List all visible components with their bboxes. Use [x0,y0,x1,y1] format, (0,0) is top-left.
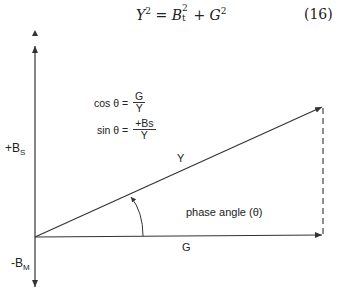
sin-denominator: Y [141,130,148,141]
label-g: G [182,241,191,253]
plus-b-text: +B [5,141,20,155]
phasor-diagram [0,0,344,291]
cos-label: cos θ = [94,97,128,109]
plus-b-subscript: S [20,148,25,157]
cos-denominator: Y [136,103,143,114]
sin-fraction: +Bs Y [133,118,155,141]
sin-formula: sin θ = +Bs Y [97,118,156,141]
conductance-vector-g [35,235,322,237]
label-y: Y [177,152,184,164]
admittance-vector-y [35,107,322,237]
axis-label-plus-bs: +BS [5,141,25,157]
top-arrowhead-icon [32,30,38,36]
minus-b-text: -B [11,256,23,270]
sin-label: sin θ = [97,124,128,136]
label-phase-angle: phase angle (θ) [186,206,262,218]
minus-b-subscript: M [23,263,30,272]
cos-fraction: G Y [133,91,145,114]
axis-label-minus-bm: -BM [11,256,30,272]
cos-formula: cos θ = G Y [94,91,145,114]
phase-angle-arc [131,197,143,236]
